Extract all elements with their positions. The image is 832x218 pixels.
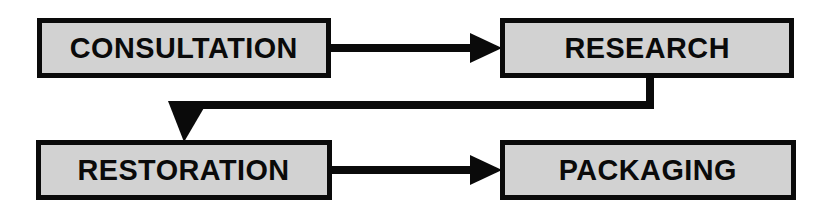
edge-consultation-to-research [331,33,502,63]
node-research[interactable]: RESEARCH [500,18,794,78]
node-consultation[interactable]: CONSULTATION [37,18,331,78]
node-consultation-label: CONSULTATION [70,33,298,63]
edge-restoration-to-packaging [332,155,502,185]
node-restoration[interactable]: RESTORATION [36,140,332,200]
node-packaging-label: PACKAGING [559,155,737,185]
node-packaging[interactable]: PACKAGING [500,140,796,200]
flowchart-canvas: CONSULTATION RESEARCH RESTORATION PACKAG… [0,0,832,218]
node-research-label: RESEARCH [564,33,729,63]
edge-research-to-restoration [168,78,650,142]
node-restoration-label: RESTORATION [78,155,290,185]
